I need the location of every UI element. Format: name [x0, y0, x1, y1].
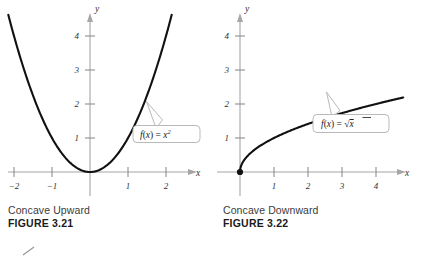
y-tick-label: 3	[224, 65, 230, 75]
y-axis-arrow-icon	[87, 13, 93, 22]
x-tick-label: 1	[126, 181, 131, 191]
x-axis-label: x	[195, 168, 201, 178]
origin-point-marker	[237, 169, 243, 175]
caption-figure-number: FIGURE 3.21	[8, 217, 221, 230]
callout-formula: f(x) = √x	[321, 119, 355, 130]
y-axis-label: y	[244, 4, 250, 14]
caption-block-3-22: Concave Downward FIGURE 3.22	[223, 204, 426, 230]
curve-sqrt-x-plot	[240, 98, 403, 172]
y-axis-label: y	[94, 4, 100, 14]
x-axis-label: x	[404, 168, 410, 178]
x-tick-label: 3	[339, 181, 345, 191]
callout-leader-line	[147, 102, 163, 129]
x-tick-label: 2	[164, 181, 169, 191]
y-tick-label: 4	[225, 31, 230, 41]
x-tick-label: −1	[47, 181, 58, 191]
y-tick-label: 1	[75, 133, 80, 143]
y-tick-label: 4	[75, 31, 80, 41]
caption-block-3-21: Concave Upward FIGURE 3.21	[8, 204, 221, 230]
x-tick-label: 1	[272, 181, 277, 191]
plot-area-sqrt: x y 1 2 3 4 1 2 3 4	[213, 0, 426, 200]
y-axis-arrow-icon	[237, 13, 243, 22]
x-tick-label: −2	[9, 181, 20, 191]
y-tick-label: 3	[74, 65, 80, 75]
x-tick-label: 2	[306, 181, 311, 191]
caption-concavity-text: Concave Upward	[8, 204, 221, 217]
y-tick-label: 2	[75, 99, 80, 109]
y-tick-label: 1	[225, 133, 230, 143]
caption-figure-number: FIGURE 3.22	[223, 217, 426, 230]
page-corner-mark-icon	[22, 246, 36, 256]
y-tick-label: 2	[225, 99, 230, 109]
figure-concave-downward: x y 1 2 3 4 1 2 3 4	[213, 0, 426, 263]
x-tick-label: 4	[374, 181, 379, 191]
callout-formula: f(x) = x2	[140, 128, 172, 141]
caption-concavity-text: Concave Downward	[223, 204, 426, 217]
figure-concave-upward: x y −2 −1 1 2 1 2 3 4	[0, 0, 213, 263]
plot-area-parabola: x y −2 −1 1 2 1 2 3 4	[0, 0, 213, 200]
